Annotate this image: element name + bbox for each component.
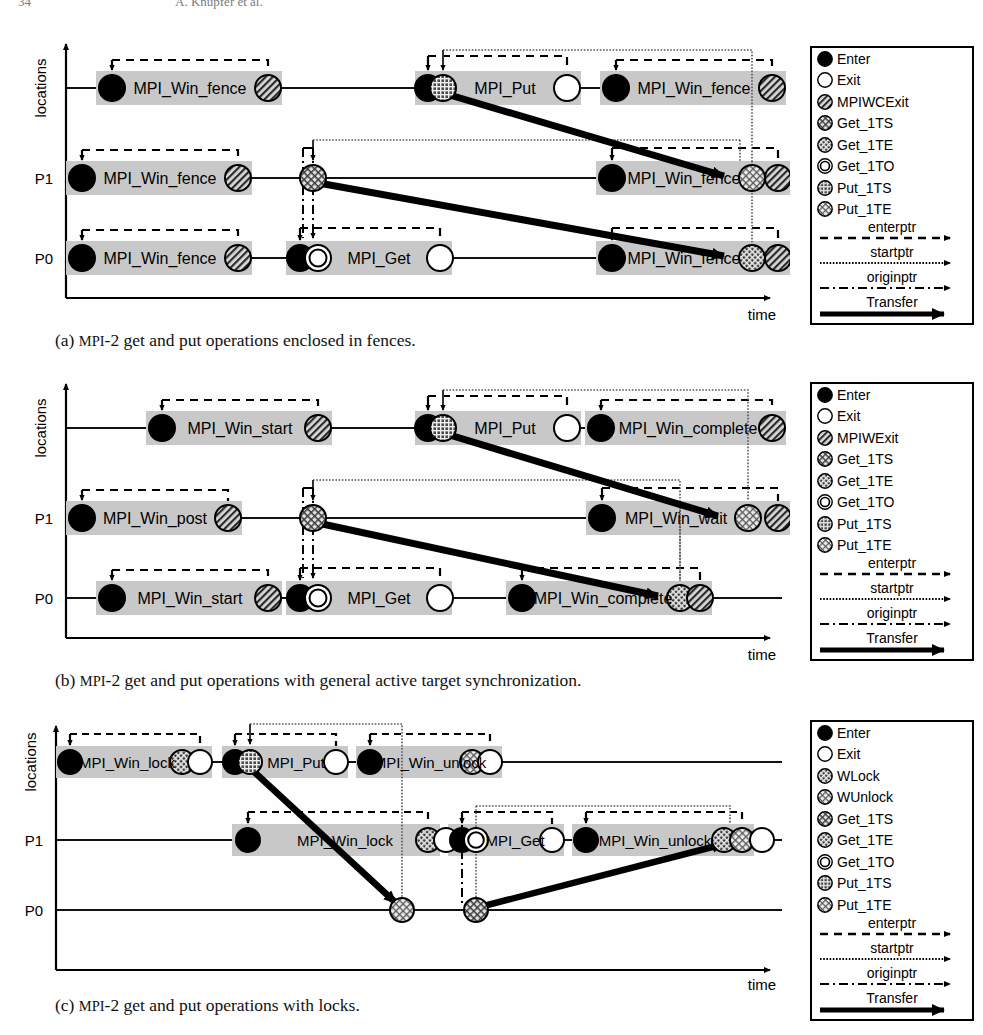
box-label: MPI_Win_complete — [619, 420, 758, 438]
marker-mpiwcexit — [225, 245, 251, 271]
legend-row: startptr — [812, 581, 972, 606]
legend-label: Put_1TE — [837, 898, 891, 912]
wlock-icon — [816, 767, 834, 785]
marker-enter — [69, 165, 95, 191]
legend-label: Put_1TS — [837, 517, 891, 531]
legend-row: originptr — [812, 606, 972, 631]
marker-exit — [324, 750, 348, 774]
legend-row: Put_1TE — [812, 894, 972, 916]
legend-row: Enter — [812, 722, 972, 744]
y-axis-label: locations — [22, 732, 39, 791]
marker-exit — [554, 75, 580, 101]
legend-row: startptr — [812, 245, 972, 270]
marker-get1ts — [464, 898, 488, 922]
marker-enter — [69, 245, 95, 271]
marker-mpiwexit — [765, 505, 790, 531]
legend-label: Enter — [837, 726, 870, 740]
x-axis-label: time — [748, 646, 776, 663]
legend-a: Enter Exit MPIWCExit Get_1TS Get_1TE Get… — [810, 46, 974, 325]
legend-row: Enter — [812, 48, 972, 70]
get-1te-icon — [816, 136, 834, 154]
marker-enter — [99, 75, 125, 101]
legend-row: Get_1TE — [812, 470, 972, 492]
marker-get1ts — [300, 505, 326, 531]
box-label: MPI_Win_fence — [628, 170, 741, 188]
legend-label: MPIWCExit — [837, 95, 909, 109]
enter-icon — [816, 724, 834, 742]
y-axis-label: locations — [32, 398, 49, 457]
marker-enter — [589, 505, 615, 531]
legend-row: Get_1TE — [812, 134, 972, 156]
exit-icon — [816, 407, 834, 425]
legend-row: Get_1TO — [812, 492, 972, 514]
box-label: MPI_Win_unlock — [599, 832, 712, 849]
legend-row: Transfer — [812, 991, 972, 1019]
enterptr-bracket — [601, 400, 772, 411]
enterptr-icon — [818, 929, 963, 939]
marker-enter — [599, 245, 625, 271]
legend-row: Exit — [812, 406, 972, 428]
legend-label: Get_1TO — [837, 159, 894, 173]
box-label: MPI_Win_fence — [134, 80, 247, 98]
x-axis-label: time — [748, 306, 776, 323]
legend-label: MPIWExit — [837, 431, 898, 445]
legend-row: enterptr — [812, 556, 972, 581]
legend-label: Exit — [837, 73, 860, 87]
legend-row: Put_1TS — [812, 177, 972, 199]
startptr-icon — [818, 594, 963, 604]
marker-mpiwcexit — [225, 165, 251, 191]
put-1te-icon — [816, 896, 834, 914]
exit-icon — [816, 745, 834, 763]
marker-exit — [750, 828, 774, 852]
enter-icon — [816, 386, 834, 404]
marker-mpiwexit — [759, 415, 785, 441]
panel-c-timeline: MPI_Win_lock MPI_Put MPI_Win_unlock MPI_… — [0, 712, 790, 997]
originptr-icon — [818, 979, 963, 989]
mpiwexit-icon — [816, 429, 834, 447]
transfer-icon — [818, 307, 963, 321]
legend-row: Transfer — [812, 631, 972, 659]
caption-prefix: (c) — [55, 995, 74, 1015]
marker-mpiwexit — [305, 415, 331, 441]
put-1te-icon — [816, 200, 834, 218]
box-label: MPI_Put — [474, 80, 536, 98]
legend-row: enterptr — [812, 916, 972, 941]
enterptr-bracket — [300, 228, 440, 241]
caption-rest: -2 get and put operations with general a… — [106, 670, 582, 690]
figure-panel-a: MPI_Win_fence MPI_Put MPI_Win_fence MPI_… — [0, 30, 983, 370]
marker-put1ts — [430, 75, 456, 101]
marker-enter — [509, 585, 535, 611]
caption-smallcaps: MPI — [79, 333, 105, 349]
caption-rest: -2 get and put operations with locks. — [105, 995, 360, 1015]
marker-enter — [236, 828, 260, 852]
row-label-p0: P0 — [25, 902, 43, 919]
put-1ts-icon — [816, 179, 834, 197]
legend-label: Put_1TS — [837, 876, 891, 890]
get-1ts-icon — [816, 114, 834, 132]
legend-row: originptr — [812, 270, 972, 295]
legend-row: Transfer — [812, 295, 972, 323]
legend-row: Put_1TS — [812, 513, 972, 535]
box-label: MPI_Win_complete — [534, 590, 673, 608]
marker-exit — [188, 750, 212, 774]
caption-b: (b) MPI-2 get and put operations with ge… — [55, 670, 582, 691]
box-label: MPI_Get — [347, 250, 411, 268]
put-1ts-icon — [816, 874, 834, 892]
legend-row: enterptr — [812, 220, 972, 245]
legend-row: Put_1TE — [812, 535, 972, 557]
get-1te-icon — [816, 472, 834, 490]
enterptr-bracket — [112, 570, 268, 581]
box-label: MPI_Win_unlock — [374, 754, 487, 771]
marker-mpiwcexit — [759, 75, 785, 101]
marker-mpiwexit — [215, 505, 241, 531]
box-label: MPI_Win_start — [138, 590, 243, 608]
panel-b-timeline: MPI_Win_start MPI_Put MPI_Win_complete M… — [0, 370, 790, 670]
figure-panel-b: MPI_Win_start MPI_Put MPI_Win_complete M… — [0, 370, 983, 715]
marker-enter — [603, 75, 629, 101]
caption-smallcaps: MPI — [80, 673, 106, 689]
legend-row: Get_1TO — [812, 156, 972, 178]
marker-mpiwexit — [255, 585, 281, 611]
enterptr-icon — [818, 233, 963, 243]
legend-row: Exit — [812, 744, 972, 766]
legend-row: Put_1TE — [812, 199, 972, 221]
